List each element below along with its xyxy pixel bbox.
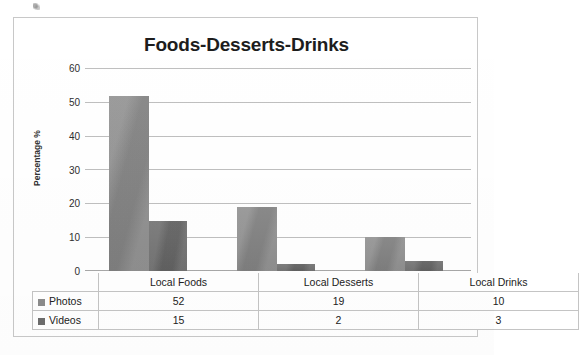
bar-group-local-foods <box>85 68 213 271</box>
bar-photos-local-drinks[interactable] <box>365 237 405 271</box>
table-header-local-desserts: Local Desserts <box>259 273 419 292</box>
table-row-categories: Local Foods Local Desserts Local Drinks <box>33 273 579 292</box>
table-cell-videos-local-drinks: 3 <box>419 311 579 330</box>
legend-entry-videos: Videos <box>33 311 99 330</box>
y-tick-label-50: 50 <box>40 96 80 107</box>
videos-swatch-icon <box>38 318 45 325</box>
table-cell-videos-local-desserts: 2 <box>259 311 419 330</box>
table-corner-blank <box>33 273 99 292</box>
photos-swatch-icon <box>38 299 45 306</box>
table-header-local-drinks: Local Drinks <box>419 273 579 292</box>
y-tick-label-20: 20 <box>40 198 80 209</box>
bar-group-local-drinks <box>341 68 469 271</box>
bar-group-local-desserts <box>213 68 341 271</box>
y-tick-label-30: 30 <box>40 164 80 175</box>
legend-label-photos: Photos <box>49 295 82 307</box>
bar-photos-local-foods[interactable] <box>109 96 149 271</box>
table-row-photos: Photos 52 19 10 <box>33 292 579 311</box>
y-tick-label-40: 40 <box>40 130 80 141</box>
scan-artifact-speck <box>33 3 40 10</box>
bar-photos-local-desserts[interactable] <box>237 207 277 271</box>
table-cell-photos-local-desserts: 19 <box>259 292 419 311</box>
chart-frame: Foods-Desserts-Drinks Percentage % 60 50… <box>13 17 478 337</box>
table-header-local-foods: Local Foods <box>99 273 259 292</box>
plot-area <box>85 68 471 271</box>
chart-title: Foods-Desserts-Drinks <box>14 34 479 56</box>
y-axis-tick-labels: 60 50 40 30 20 10 0 <box>36 68 80 271</box>
y-tick-label-60: 60 <box>40 63 80 74</box>
bar-videos-local-desserts[interactable] <box>277 264 315 271</box>
bar-videos-local-foods[interactable] <box>149 221 187 272</box>
y-tick-label-10: 10 <box>40 232 80 243</box>
table-row-videos: Videos 15 2 3 <box>33 311 579 330</box>
bar-videos-local-drinks[interactable] <box>405 261 443 271</box>
legend-entry-photos: Photos <box>33 292 99 311</box>
table-cell-videos-local-foods: 15 <box>99 311 259 330</box>
table-cell-photos-local-drinks: 10 <box>419 292 579 311</box>
legend-label-videos: Videos <box>49 314 81 326</box>
table-cell-photos-local-foods: 52 <box>99 292 259 311</box>
chart-data-table: Local Foods Local Desserts Local Drinks … <box>32 273 579 330</box>
